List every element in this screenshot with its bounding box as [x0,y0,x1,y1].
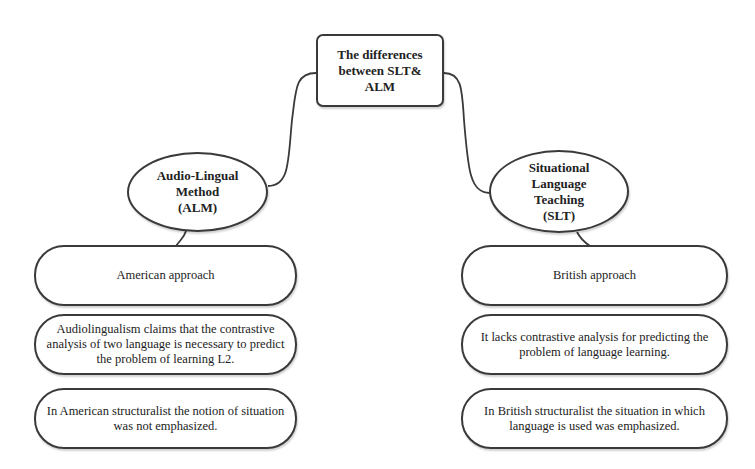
slt-title: Situational Language Teaching (SLT) [529,160,590,224]
connector-root-to-alm [268,73,316,186]
alm-node: Audio-Lingual Method (ALM) [127,152,268,232]
alm-item-approach: American approach [34,245,297,306]
connector-slt-to-list [577,232,590,246]
slt-item-contrastive-analysis: It lacks contrastive analysis for predic… [461,314,728,375]
slt-item-label: In British structuralist the situation i… [484,404,705,434]
connector-root-to-slt [444,73,490,193]
slt-item-situation: In British structuralist the situation i… [461,388,728,449]
root-title: The differences between SLT& ALM [337,47,422,95]
slt-item-label: It lacks contrastive analysis for predic… [481,330,709,360]
connector-alm-to-list [176,231,186,246]
slt-item-label: British approach [553,268,636,283]
alm-item-label: Audiolingualism claims that the contrast… [47,322,285,367]
alm-item-situation: In American structuralist the notion of … [34,388,297,449]
slt-node: Situational Language Teaching (SLT) [489,150,629,233]
alm-item-contrastive-analysis: Audiolingualism claims that the contrast… [34,314,297,375]
alm-title: Audio-Lingual Method (ALM) [157,168,239,216]
alm-item-label: American approach [116,268,214,283]
slt-item-approach: British approach [461,245,728,306]
alm-item-label: In American structuralist the notion of … [47,404,284,434]
root-node: The differences between SLT& ALM [316,34,444,107]
